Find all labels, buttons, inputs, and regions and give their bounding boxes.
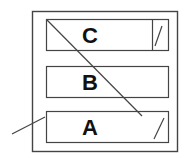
- box-c: C: [47, 20, 169, 51]
- box-a-label: A: [82, 115, 98, 140]
- box-c-label: C: [82, 23, 98, 48]
- diagram-canvas: C B A: [0, 0, 186, 158]
- box-a: A: [47, 112, 169, 143]
- box-b: B: [47, 67, 169, 98]
- box-b-label: B: [82, 70, 98, 95]
- leader-line: [12, 117, 45, 134]
